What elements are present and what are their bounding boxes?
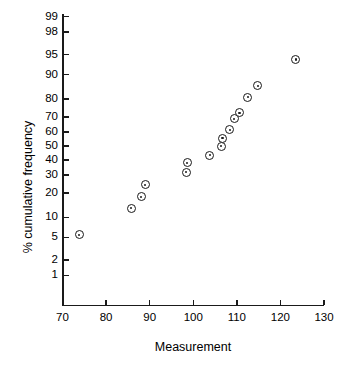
y-tick-label: 30	[32, 169, 58, 181]
y-tick-mark	[64, 192, 69, 193]
data-point	[205, 151, 214, 160]
data-point	[243, 93, 252, 102]
data-point	[218, 134, 227, 143]
y-tick-mark	[64, 74, 69, 75]
data-point	[253, 81, 262, 90]
x-tick-label: 110	[217, 311, 257, 323]
y-tick-label: 2	[32, 254, 58, 266]
y-tick-label-container: 98	[30, 26, 58, 38]
y-tick-label: 98	[32, 26, 58, 38]
y-tick-mark	[64, 31, 69, 32]
y-tick-label: 80	[32, 93, 58, 105]
normal-probability-plot-figure: 999895908070605040302010521 708090100110…	[0, 0, 359, 375]
data-point	[75, 230, 84, 239]
x-tick-mark	[323, 300, 324, 305]
data-point	[141, 180, 150, 189]
x-tick-label: 90	[130, 311, 170, 323]
y-tick-label: 60	[32, 126, 58, 138]
y-tick-mark	[64, 145, 69, 146]
x-tick-label: 130	[304, 311, 344, 323]
x-tick-mark	[105, 300, 106, 305]
y-tick-mark	[64, 275, 69, 276]
x-axis-title: Measurement	[62, 340, 324, 354]
x-tick-label: 80	[86, 311, 126, 323]
x-tick-mark	[280, 300, 281, 305]
y-tick-mark	[64, 237, 69, 238]
y-tick-label-container: 99	[30, 11, 58, 23]
x-tick-mark	[193, 300, 194, 305]
plot-area: 999895908070605040302010521 708090100110…	[0, 0, 359, 375]
y-axis-title-container: % cumulative frequency	[8, 30, 24, 270]
y-tick-label: 20	[32, 187, 58, 199]
y-tick-mark	[64, 174, 69, 175]
y-tick-label: 1	[32, 269, 58, 281]
data-point	[225, 125, 234, 134]
x-axis-line	[62, 305, 324, 307]
y-tick-mark	[64, 16, 69, 17]
y-tick-label: 5	[32, 231, 58, 243]
data-point	[217, 142, 226, 151]
y-axis-title: % cumulative frequency	[21, 87, 35, 287]
y-tick-mark	[64, 131, 69, 132]
y-tick-label: 90	[32, 69, 58, 81]
x-tick-label: 100	[173, 311, 213, 323]
x-tick-mark	[149, 300, 150, 305]
data-point	[127, 204, 136, 213]
y-tick-mark	[64, 159, 69, 160]
y-tick-mark	[64, 217, 69, 218]
y-tick-label: 70	[32, 111, 58, 123]
data-point	[235, 108, 244, 117]
y-tick-label: 50	[32, 140, 58, 152]
y-tick-mark	[64, 98, 69, 99]
data-point	[291, 55, 300, 64]
y-tick-label: 95	[32, 49, 58, 61]
y-tick-label-container: 90	[30, 69, 58, 81]
y-tick-label-container: 95	[30, 49, 58, 61]
y-tick-mark	[64, 259, 69, 260]
y-tick-label: 40	[32, 154, 58, 166]
data-point	[182, 168, 191, 177]
x-tick-mark	[236, 300, 237, 305]
y-tick-label: 99	[32, 11, 58, 23]
x-tick-label: 70	[43, 311, 83, 323]
x-tick-label: 120	[260, 311, 300, 323]
y-tick-label: 10	[32, 211, 58, 223]
y-tick-mark	[64, 116, 69, 117]
data-point	[137, 192, 146, 201]
data-point	[183, 158, 192, 167]
y-tick-mark	[64, 54, 69, 55]
